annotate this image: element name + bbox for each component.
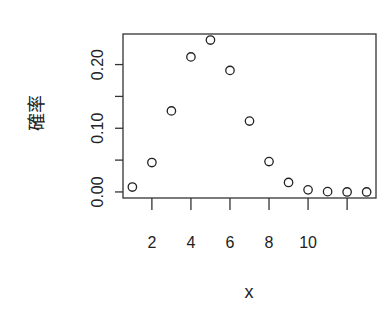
- x-axis: 246810: [147, 198, 347, 251]
- data-point: [284, 178, 292, 186]
- x-tick-label: 6: [226, 234, 235, 251]
- y-tick-label: 0.20: [89, 49, 106, 80]
- x-tick-label: 8: [265, 234, 274, 251]
- y-axis: 0.000.100.20: [89, 49, 123, 208]
- data-point: [187, 53, 195, 61]
- data-point: [245, 117, 253, 125]
- data-point: [148, 158, 156, 166]
- y-tick-label: 0.10: [89, 113, 106, 144]
- data-point: [128, 183, 136, 191]
- x-tick-label: 10: [299, 234, 317, 251]
- data-point: [206, 36, 214, 44]
- data-point: [304, 186, 312, 194]
- data-point: [362, 188, 370, 196]
- data-point: [323, 187, 331, 195]
- y-axis-label: 確率: [26, 95, 47, 131]
- x-tick-label: 4: [186, 234, 195, 251]
- data-point: [167, 107, 175, 115]
- x-axis-label: x: [245, 282, 254, 302]
- data-point: [226, 66, 234, 74]
- plot-box: [123, 34, 376, 198]
- data-point: [343, 188, 351, 196]
- data-point: [265, 157, 273, 165]
- scatter-chart: 0.000.100.20 246810 x 確率: [0, 0, 392, 318]
- y-tick-label: 0.00: [89, 176, 106, 207]
- data-points: [128, 36, 371, 196]
- x-tick-label: 2: [147, 234, 156, 251]
